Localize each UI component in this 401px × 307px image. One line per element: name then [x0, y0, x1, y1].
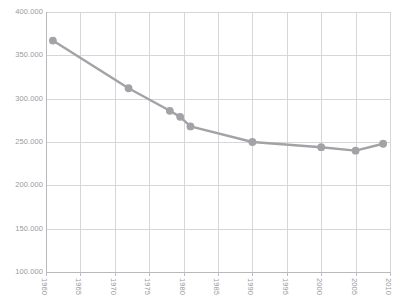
x-axis-tick-mark — [218, 272, 219, 276]
gridline-vertical — [390, 12, 391, 272]
gridline-vertical — [287, 12, 288, 272]
y-axis-tick-label: 100.000 — [0, 267, 43, 276]
y-axis-tick-label: 300.000 — [0, 94, 43, 103]
gridline-vertical — [356, 12, 357, 272]
x-axis-tick-label: 2000 — [315, 278, 324, 295]
x-axis-tick-label: 1965 — [74, 278, 83, 295]
line-chart: 400.000350.000300.000250.000200.000150.0… — [0, 0, 401, 307]
x-axis-tick-mark — [390, 272, 391, 276]
gridline-vertical — [252, 12, 253, 272]
x-axis-tick-mark — [356, 272, 357, 276]
x-axis-tick-mark — [287, 272, 288, 276]
x-axis-tick-mark — [149, 272, 150, 276]
x-axis-tick-label: 1995 — [281, 278, 290, 295]
gridline-vertical — [218, 12, 219, 272]
gridline-vertical — [184, 12, 185, 272]
plot-area — [46, 12, 390, 272]
x-axis-tick-label: 1960 — [40, 278, 49, 295]
x-axis-tick-label: 1970 — [109, 278, 118, 295]
gridline-vertical — [321, 12, 322, 272]
x-axis-tick-mark — [184, 272, 185, 276]
x-axis-tick-label: 2010 — [384, 278, 393, 295]
y-axis-tick-label: 250.000 — [0, 137, 43, 146]
x-axis-tick-label: 1975 — [143, 278, 152, 295]
x-axis-tick-mark — [115, 272, 116, 276]
x-axis-tick-mark — [80, 272, 81, 276]
y-axis-line — [46, 12, 47, 273]
y-axis-tick-label: 200.000 — [0, 180, 43, 189]
y-axis-tick-label: 350.000 — [0, 50, 43, 59]
y-axis-tick-label: 400.000 — [0, 7, 43, 16]
x-axis-tick-label: 2005 — [350, 278, 359, 295]
x-axis-tick-mark — [252, 272, 253, 276]
gridline-vertical — [149, 12, 150, 272]
gridline-vertical — [115, 12, 116, 272]
x-axis-tick-label: 1990 — [246, 278, 255, 295]
gridline-vertical — [80, 12, 81, 272]
x-axis-tick-label: 1985 — [212, 278, 221, 295]
y-axis-tick-label: 150.000 — [0, 224, 43, 233]
x-axis-tick-mark — [321, 272, 322, 276]
x-axis-tick-mark — [46, 272, 47, 276]
x-axis-tick-label: 1980 — [178, 278, 187, 295]
page-title — [0, 0, 401, 2]
